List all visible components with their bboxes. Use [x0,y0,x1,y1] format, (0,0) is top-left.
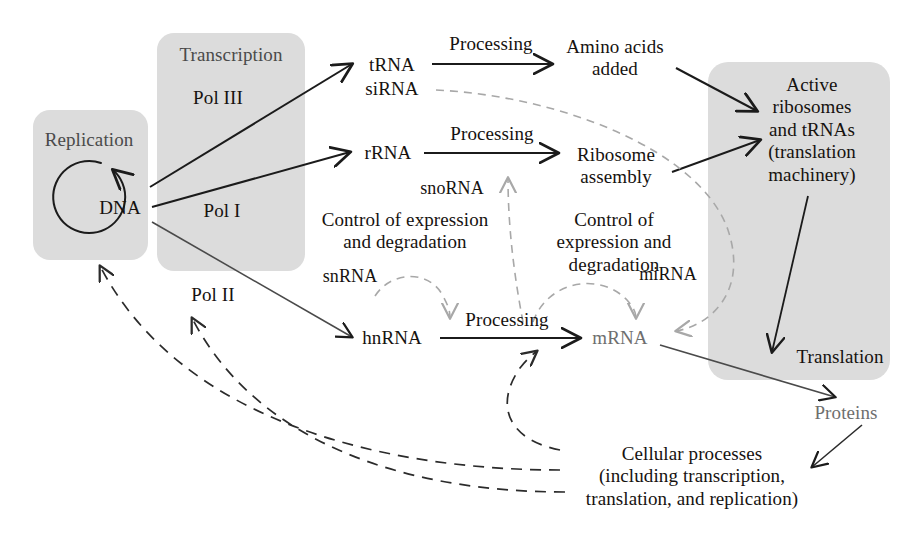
node-hnrna: hnRNA [362,327,422,349]
node-control-left: Control of expression and degradation [322,209,489,254]
node-pol-iii: Pol III [193,87,243,109]
edge-snorna-rrna [508,178,523,322]
node-ribosome-assembly: Ribosome assembly [577,144,655,189]
edge-proteins-cellularprocesses [812,425,862,467]
node-trna: tRNA [369,54,415,76]
node-active-ribosomes: Active ribosomes and tRNAs (translation … [768,74,856,186]
node-cellular-processes: Cellular processes (including transcript… [586,443,798,510]
node-snrna: snRNA [323,266,378,287]
node-dna: DNA [99,197,140,219]
edge-label-processing-trna: Processing [449,33,532,55]
node-snorna: snoRNA [420,178,484,199]
edge-label-processing-hnrna: Processing [465,309,548,331]
node-pol-ii: Pol II [191,284,234,306]
edge-label-processing-rrna: Processing [450,123,533,145]
edge-ribosomes-translation [772,196,808,352]
edge-feedback-replication [100,266,560,470]
edge-dna-rrna [152,152,350,207]
panel-label-transcription: Transcription [180,44,283,66]
node-rrna: rRNA [365,142,412,164]
edge-feedback-processing [507,351,560,450]
edge-dna-trna [150,64,352,187]
node-amino-acids-added: Amino acids added [566,36,664,81]
node-sirna: siRNA [365,78,418,100]
panel-label-replication: Replication [45,129,134,151]
node-translation: Translation [797,346,884,368]
edge-aminoacids-ribosomes [676,68,757,111]
node-proteins: Proteins [814,402,877,424]
node-mrna: mRNA [592,327,647,349]
edge-snrna-hnrna [375,277,450,319]
node-control-right: Control of expression and degradation [557,209,672,276]
diagram-canvas: Replication Transcription DNA Pol III Po… [0,0,920,537]
node-pol-i: Pol I [204,200,241,222]
edge-ribosomeassembly-ribosomes [672,140,760,172]
